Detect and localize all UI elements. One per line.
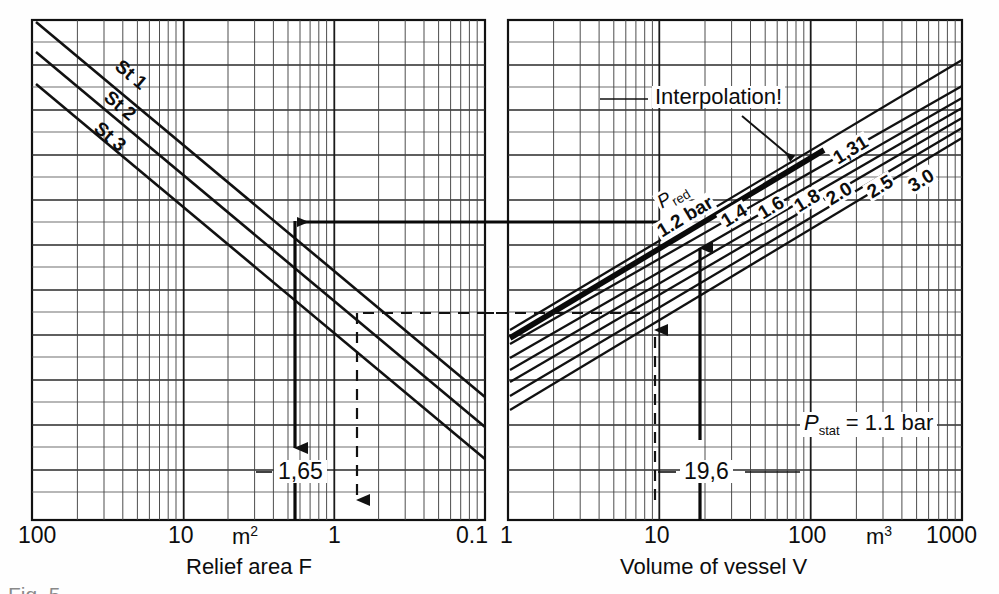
left-unit-exponent: 2 (250, 523, 258, 539)
p-stat-annotation: Pstat = 1.1 bar (800, 412, 937, 437)
p-stat-symbol: P (804, 410, 819, 435)
left-xtick-1: 1 (328, 524, 341, 547)
right-unit-symbol: m (866, 524, 884, 549)
right-xtick-1000: 1000 (926, 524, 977, 547)
left-unit-symbol: m (232, 524, 250, 549)
left-unit: m2 (232, 524, 258, 548)
figure-caption-partial: Fig. 5 (8, 583, 61, 594)
left-readout-value: 1,65 (274, 460, 327, 483)
p-stat-subscript: stat (819, 423, 840, 438)
left-xtick-100: 100 (18, 524, 56, 547)
right-readout-value: 19,6 (680, 460, 733, 483)
right-axis-title: Volume of vessel V (620, 556, 807, 578)
p-stat-value: = 1.1 bar (846, 410, 933, 435)
right-unit: m3 (866, 524, 892, 548)
right-unit-exponent: 3 (884, 523, 892, 539)
right-xtick-1: 1 (500, 524, 513, 547)
right-xtick-10: 10 (644, 524, 670, 547)
nomogram-canvas (0, 0, 999, 594)
right-xtick-100: 100 (788, 524, 826, 547)
nomogram-figure: St 1 St 2 St 3 1,65 100 10 m2 1 0.1 Reli… (0, 0, 999, 594)
left-xtick-0-1: 0.1 (456, 524, 488, 547)
left-xtick-10: 10 (168, 524, 194, 547)
interpolation-annotation: Interpolation! (652, 86, 785, 108)
left-axis-title: Relief area F (186, 556, 312, 578)
